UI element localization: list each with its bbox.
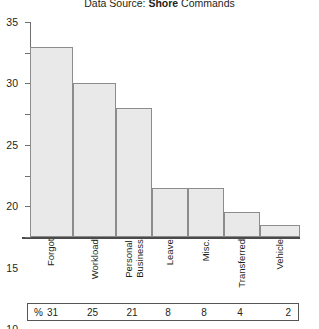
bar — [260, 225, 300, 237]
bar — [30, 47, 73, 237]
x-axis-label: Transferred — [224, 239, 260, 301]
chart-plot-area: 35302520151050 — [30, 22, 300, 237]
x-axis-label: Vehicle — [260, 239, 300, 301]
data-table-value: 8 — [165, 307, 171, 318]
y-axis-tick-label: 25 — [6, 140, 18, 151]
data-table-cell: 8 — [150, 304, 186, 320]
data-table-cell: 25 — [71, 304, 114, 320]
x-axis-label: PersonalBusiness — [116, 239, 152, 301]
x-axis-label-line1: Forgot — [45, 239, 56, 266]
percent-symbol: % — [34, 307, 43, 318]
y-axis-tick: 0 — [25, 237, 31, 238]
y-axis-tick-label: 30 — [6, 78, 18, 89]
y-axis-tick-label: 10 — [6, 324, 18, 329]
data-table-cell: %31 — [28, 304, 71, 320]
x-axis-label-line1: Transferred — [236, 239, 247, 288]
data-table-value: 31 — [47, 307, 58, 318]
chart-title-emphasis: Shore — [148, 0, 178, 9]
x-axis-label-line1: Personal — [123, 240, 134, 278]
chart-title: Data Source: Shore Commands — [0, 0, 319, 9]
y-axis-tick-label: 20 — [6, 201, 18, 212]
x-axis-label-line2: Business — [134, 239, 145, 278]
y-axis-tick-label: 15 — [6, 263, 18, 274]
bar — [224, 212, 260, 237]
x-axis-label-line1: Misc. — [200, 239, 211, 261]
chart-title-suffix: Commands — [178, 0, 235, 9]
data-table-cell: 2 — [258, 304, 298, 320]
data-table-cell: 8 — [186, 304, 222, 320]
x-axis-label-line1: Leave — [164, 239, 175, 265]
data-table-value: 8 — [201, 307, 207, 318]
y-axis-tick: 35 — [25, 22, 31, 23]
data-table-value: 21 — [126, 307, 137, 318]
x-axis-label-line1: Vehicle — [274, 239, 285, 270]
data-table-cell: 21 — [114, 304, 150, 320]
y-axis-tick-label: 35 — [6, 17, 18, 28]
data-table-cell: 4 — [222, 304, 258, 320]
x-axis-category-labels: ForgotWorkloadPersonalBusinessLeaveMisc.… — [30, 239, 300, 301]
x-axis-label: Workload — [73, 239, 116, 301]
x-axis-label: Misc. — [188, 239, 224, 301]
x-axis-label: Leave — [152, 239, 188, 301]
data-table-value: 2 — [285, 307, 291, 318]
data-table: %3125218842 — [27, 303, 299, 321]
bar — [152, 188, 188, 237]
bar — [188, 188, 224, 237]
bar — [73, 83, 116, 237]
bar — [116, 108, 152, 237]
chart-title-prefix: Data Source: — [84, 0, 148, 9]
data-table-value: 4 — [237, 307, 243, 318]
data-table-value: 25 — [87, 307, 98, 318]
x-axis-label: Forgot — [30, 239, 73, 301]
x-axis-label-line1: Workload — [88, 239, 99, 279]
